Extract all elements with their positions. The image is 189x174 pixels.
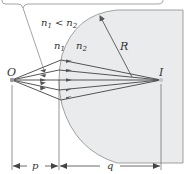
image-label: I: [158, 66, 164, 79]
radius-label: R: [119, 40, 128, 53]
n1-label: n1: [54, 40, 65, 53]
glass-medium: [59, 10, 183, 163]
refraction-diagram: n1<n2 n1 n2 R O I p q: [0, 0, 189, 174]
object-label: O: [7, 66, 16, 79]
image-distance-label: q: [107, 160, 113, 171]
condition-label: n1<n2: [41, 17, 78, 30]
object-distance-label: p: [32, 160, 39, 171]
